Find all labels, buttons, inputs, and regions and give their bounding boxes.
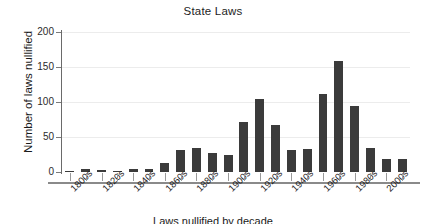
x-tick-mark — [196, 173, 197, 181]
x-tick-mark — [355, 173, 356, 181]
x-tick-mark — [228, 173, 229, 181]
y-tick-mark — [56, 67, 61, 68]
bar — [319, 94, 328, 172]
y-tick-label: 100 — [14, 97, 54, 107]
plot-area — [62, 32, 410, 172]
x-tick-mark — [276, 173, 277, 181]
x-axis-caption: Laws nullified by decade — [0, 215, 426, 224]
bar — [350, 106, 359, 173]
x-tick-mark — [307, 173, 308, 181]
y-axis-title: Number of laws nullified — [22, 17, 34, 167]
x-tick-mark — [260, 173, 261, 181]
bar — [65, 171, 74, 172]
chart-page: State Laws Number of laws nullified 0501… — [0, 0, 426, 224]
bar — [239, 122, 248, 172]
bar — [287, 150, 296, 172]
bar — [129, 169, 138, 173]
x-tick-mark — [370, 173, 371, 181]
y-tick-label: 200 — [14, 27, 54, 37]
x-tick-mark — [102, 173, 103, 181]
x-tick-mark — [165, 173, 166, 181]
bar — [160, 163, 169, 172]
y-tick-mark — [56, 102, 61, 103]
gridline — [62, 102, 410, 103]
x-tick-mark — [386, 173, 387, 181]
y-tick-mark — [56, 32, 61, 33]
bar — [382, 159, 391, 172]
x-tick-mark — [86, 173, 87, 181]
x-tick-mark — [212, 173, 213, 181]
x-tick-mark — [133, 173, 134, 181]
bar — [97, 170, 106, 172]
y-tick-label: 0 — [14, 167, 54, 177]
x-tick-mark — [149, 173, 150, 181]
x-tick-mark — [291, 173, 292, 181]
bar — [334, 61, 343, 172]
bar — [192, 148, 201, 173]
bar — [224, 155, 233, 173]
chart-title: State Laws — [0, 5, 426, 17]
x-tick-mark — [181, 173, 182, 181]
bar — [271, 125, 280, 172]
y-tick-mark — [56, 137, 61, 138]
x-tick-mark — [339, 173, 340, 181]
y-tick-mark — [56, 172, 61, 173]
gridline — [62, 32, 410, 33]
y-tick-label: 50 — [14, 132, 54, 142]
gridline — [62, 67, 410, 68]
x-tick-mark — [402, 173, 403, 181]
x-tick-mark — [117, 173, 118, 181]
x-tick-mark — [70, 173, 71, 181]
y-tick-label: 150 — [14, 62, 54, 72]
x-tick-mark — [244, 173, 245, 181]
x-tick-mark — [323, 173, 324, 181]
bar — [255, 99, 264, 172]
